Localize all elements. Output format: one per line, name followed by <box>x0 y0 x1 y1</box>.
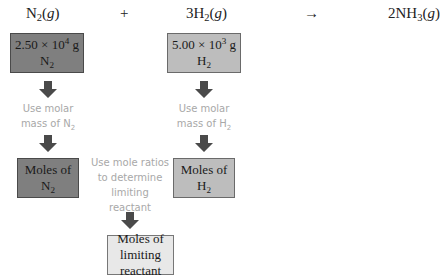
n2-moles-box: Moles of N2 <box>17 158 79 198</box>
n2-molar-mass-note: Use molar mass of N2 <box>18 101 78 131</box>
down-arrow-icon <box>195 81 213 98</box>
down-arrow-icon <box>121 212 139 229</box>
product-nh3: 2NH3(g) <box>388 5 440 22</box>
reaction-arrow: → <box>304 5 319 22</box>
down-arrow-icon <box>39 81 57 98</box>
reactant-h2: 3H2(g) <box>186 5 227 22</box>
h2-mass-box: 5.00 × 103 g H2 <box>167 33 241 73</box>
down-arrow-icon <box>195 135 213 152</box>
plus-sign: + <box>120 5 128 22</box>
reactant-n2: N2(g) <box>26 5 60 22</box>
h2-moles-box: Moles of H2 <box>173 158 235 198</box>
limiting-reactant-box: Moles of limiting reactant <box>107 235 174 275</box>
n2-mass-box: 2.50 × 104 g N2 <box>10 33 84 73</box>
mole-ratio-note: Use mole ratios to determine limiting re… <box>90 155 170 215</box>
down-arrow-icon <box>39 135 57 152</box>
h2-molar-mass-note: Use molar mass of H2 <box>174 101 234 131</box>
